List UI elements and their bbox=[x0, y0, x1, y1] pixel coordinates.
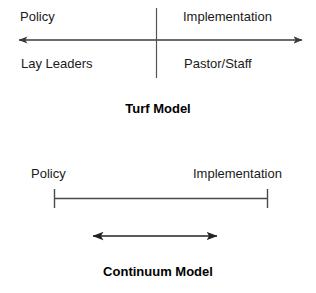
turf-policy-label: Policy bbox=[20, 9, 55, 24]
turf-pastor-staff-label: Pastor/Staff bbox=[184, 56, 252, 71]
continuum-policy-label: Policy bbox=[31, 166, 66, 181]
diagram-vector-layer bbox=[0, 0, 316, 293]
turf-model-caption: Turf Model bbox=[0, 101, 316, 116]
turf-lay-leaders-label: Lay Leaders bbox=[21, 56, 93, 71]
continuum-model-caption: Continuum Model bbox=[0, 264, 316, 279]
continuum-implementation-label: Implementation bbox=[193, 166, 282, 181]
turf-implementation-label: Implementation bbox=[183, 9, 272, 24]
diagram-canvas: Policy Implementation Lay Leaders Pastor… bbox=[0, 0, 316, 293]
